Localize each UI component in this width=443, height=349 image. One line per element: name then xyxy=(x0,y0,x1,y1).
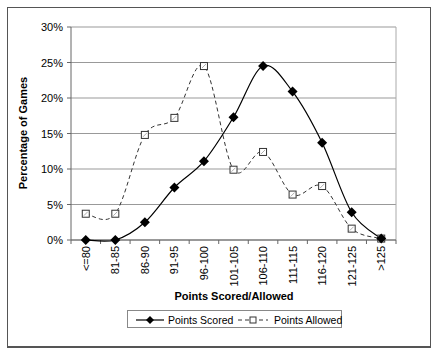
data-series xyxy=(81,61,386,245)
y-tick-label: 10% xyxy=(41,163,63,175)
y-tick-label: 0% xyxy=(47,234,63,246)
diamond-marker-icon xyxy=(317,138,327,148)
diamond-marker-icon xyxy=(288,87,298,97)
y-tick-label: 15% xyxy=(41,128,63,140)
series-line-points-scored xyxy=(86,65,381,241)
y-tick-label: 30% xyxy=(41,21,63,33)
diamond-marker-icon xyxy=(146,316,154,324)
x-tick-label: 116-120 xyxy=(316,246,328,286)
x-axis-title: Points Scored/Allowed xyxy=(174,290,293,302)
x-tick-label: <=80 xyxy=(80,246,92,271)
diamond-marker-icon xyxy=(229,112,239,122)
gridlines xyxy=(71,27,396,240)
x-tick-label: 81-85 xyxy=(109,246,121,274)
diamond-marker-icon xyxy=(347,207,357,217)
x-tick-labels: <=8081-8586-9091-9596-100101-105106-1101… xyxy=(80,246,387,286)
series-line-points-allowed xyxy=(86,65,381,239)
legend-label-points-allowed: Points Allowed xyxy=(274,314,342,326)
x-tick-label: 86-90 xyxy=(139,246,151,274)
y-tick-label: 5% xyxy=(47,199,63,211)
x-tick-label: 121-125 xyxy=(346,246,358,286)
legend-item-points-allowed: Points Allowed xyxy=(238,314,342,326)
x-tick-label: >125 xyxy=(375,246,387,271)
square-marker-icon xyxy=(250,317,256,323)
line-chart: 0%5%10%15%20%25%30% <=8081-8586-9091-959… xyxy=(0,0,443,349)
y-tick-label: 20% xyxy=(41,92,63,104)
x-tick-label: 91-95 xyxy=(168,246,180,274)
y-tick-labels: 0%5%10%15%20%25%30% xyxy=(41,21,63,246)
diamond-marker-icon xyxy=(81,235,91,245)
diamond-marker-icon xyxy=(110,235,120,245)
x-tick-label: 106-110 xyxy=(257,246,269,286)
legend-item-points-scored: Points Scored xyxy=(136,314,234,326)
y-axis-title: Percentage of Games xyxy=(17,77,29,190)
legend-label-points-scored: Points Scored xyxy=(168,314,234,326)
x-tick-label: 96-100 xyxy=(198,246,210,280)
y-tick-label: 25% xyxy=(41,57,63,69)
x-tick-label: 111-115 xyxy=(287,246,299,284)
x-tick-label: 101-105 xyxy=(228,246,240,286)
legend: Points Scored Points Allowed xyxy=(127,310,342,328)
